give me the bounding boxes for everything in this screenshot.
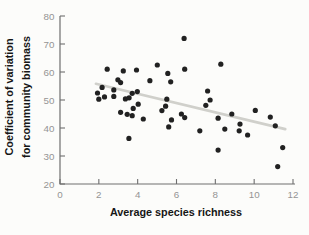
data-point xyxy=(168,79,173,84)
data-point xyxy=(111,94,116,99)
tick-label-layer: 20304050607080024681012 xyxy=(44,11,299,201)
axis-titles-layer: Coefficient of variation for community b… xyxy=(3,36,242,218)
regression-line xyxy=(96,84,285,129)
y-tick-label: 70 xyxy=(44,39,55,50)
x-tick-label: 8 xyxy=(213,189,219,200)
data-point xyxy=(155,62,160,67)
data-point xyxy=(273,123,278,128)
data-point xyxy=(121,68,126,73)
x-tick-label: 10 xyxy=(249,189,260,200)
y-tick-label: 60 xyxy=(44,67,55,78)
data-point xyxy=(118,110,123,115)
data-point xyxy=(100,85,105,90)
x-axis-label: Average species richness xyxy=(110,206,242,218)
y-tick-label: 30 xyxy=(44,151,55,162)
x-tick-label: 0 xyxy=(57,189,63,200)
data-point xyxy=(222,127,227,132)
data-point xyxy=(134,67,139,72)
y-axis-label-line2: for community biomass xyxy=(20,36,32,158)
data-point xyxy=(216,116,221,121)
axes-layer xyxy=(60,16,295,184)
data-point xyxy=(102,94,107,99)
data-point xyxy=(245,132,250,137)
data-point xyxy=(216,148,221,153)
data-point xyxy=(136,102,141,107)
data-point xyxy=(159,108,164,113)
y-tick-label: 80 xyxy=(44,11,55,22)
data-point xyxy=(141,116,146,121)
data-point xyxy=(280,145,285,150)
data-point xyxy=(127,95,132,100)
data-point xyxy=(237,122,242,127)
data-point xyxy=(237,128,242,133)
data-point xyxy=(182,36,187,41)
data-point xyxy=(218,62,223,67)
y-tick-label: 20 xyxy=(44,179,55,190)
scatter-chart: 20304050607080024681012 Coefficient of v… xyxy=(0,0,309,235)
data-point xyxy=(163,104,168,109)
data-point xyxy=(203,103,208,108)
data-point xyxy=(95,90,100,95)
data-point xyxy=(253,108,258,113)
data-point xyxy=(169,117,174,122)
trend-line-layer xyxy=(96,84,285,129)
data-point xyxy=(131,106,136,111)
y-tick-label: 40 xyxy=(44,123,55,134)
y-axis-label-line1: Coefficient of variation xyxy=(3,39,15,156)
data-point xyxy=(182,115,187,120)
data-point xyxy=(111,87,116,92)
data-point xyxy=(126,136,131,141)
data-point xyxy=(147,78,152,83)
axis-spine xyxy=(60,16,295,184)
data-point xyxy=(268,115,273,120)
y-tick-label: 50 xyxy=(44,95,55,106)
data-point xyxy=(118,80,123,85)
data-point xyxy=(125,112,130,117)
data-point xyxy=(197,128,202,133)
data-point xyxy=(130,113,135,118)
data-points-layer xyxy=(95,36,285,169)
x-tick-label: 4 xyxy=(135,189,141,200)
scatter-figure: 20304050607080024681012 Coefficient of v… xyxy=(0,0,309,235)
data-point xyxy=(96,97,101,102)
x-tick-label: 2 xyxy=(96,189,101,200)
data-point xyxy=(130,91,135,96)
data-point xyxy=(164,97,169,102)
x-tick-label: 12 xyxy=(288,189,299,200)
data-point xyxy=(105,67,110,72)
data-point xyxy=(208,97,213,102)
x-tick-label: 6 xyxy=(174,189,180,200)
data-point xyxy=(135,89,140,94)
data-point xyxy=(205,88,210,93)
data-point xyxy=(229,111,234,116)
data-point xyxy=(275,164,280,169)
data-point xyxy=(182,67,187,72)
data-point xyxy=(166,124,171,129)
data-point xyxy=(165,71,170,76)
